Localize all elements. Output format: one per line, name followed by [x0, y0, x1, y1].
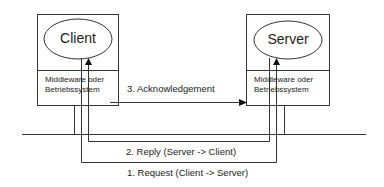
- server-middleware-line1: Middleware oder: [254, 75, 313, 85]
- server-middleware-line2: Betriebssystem: [254, 85, 313, 95]
- client-label: Client: [44, 30, 112, 46]
- server-label: Server: [254, 31, 322, 47]
- request-label: 1. Request (Client -> Server): [127, 167, 248, 178]
- request-arrowhead-icon: [273, 58, 280, 65]
- server-middleware-label: Middleware oder Betriebssystem: [254, 75, 313, 95]
- client-middleware-line1: Middleware oder: [45, 75, 104, 85]
- ack-arrowhead-icon: [239, 99, 247, 106]
- reply-label: 2. Reply (Server -> Client): [126, 146, 236, 157]
- client-middleware-line2: Betriebssystem: [45, 85, 104, 95]
- reply-arrowhead-icon: [85, 58, 92, 65]
- acknowledgement-label: 3. Acknowledgement: [127, 83, 215, 94]
- client-middleware-label: Middleware oder Betriebssystem: [45, 75, 104, 95]
